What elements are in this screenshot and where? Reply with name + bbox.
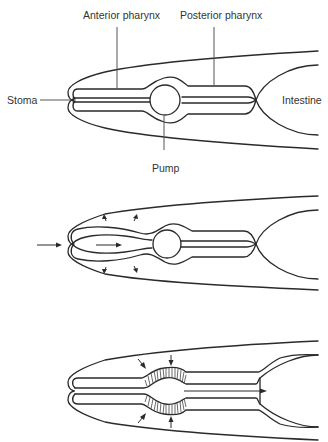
intestine-outline [256,210,318,279]
arrow-flow-to-intestine-icon [184,389,267,394]
panel-1-at-rest: Anterior pharynx Posterior pharynx Stoma… [7,9,322,174]
arrow-compression-bottom-icon [138,413,174,428]
body-outline-top [68,51,318,101]
pharynx-lumen-bottom [73,100,256,103]
pump-muscle-hatching-bottom [145,396,186,414]
pharynx-lumen-top [73,97,256,100]
arrow-inflow-icon [37,243,62,248]
arrow-dilation-down-icon [102,266,138,274]
pharynx-lumen-bottom [75,394,260,404]
panel-2-anterior-dilation [37,196,318,290]
body-outline-bottom [68,99,318,149]
label-posterior-pharynx: Posterior pharynx [180,9,263,21]
arrow-lumen-flow-icon [96,243,122,248]
label-stoma: Stoma [7,94,38,106]
label-pump: Pump [152,162,180,174]
pump-muscle-hatching-top [145,368,186,386]
body-outline-bottom [68,243,318,290]
label-intestine: Intestine [282,94,322,106]
pump-bulb-lumen [153,230,181,258]
label-anterior-pharynx: Anterior pharynx [83,9,161,21]
pump-bulb-lumen [150,85,180,115]
pharynx-lumen-top [75,378,260,388]
pharynx-pumping-diagram: Anterior pharynx Posterior pharynx Stoma… [0,0,328,442]
pharynx-lumen-top [73,235,256,244]
arrow-dilation-up-icon [102,214,138,221]
panel-3-pump-contraction [68,341,318,440]
